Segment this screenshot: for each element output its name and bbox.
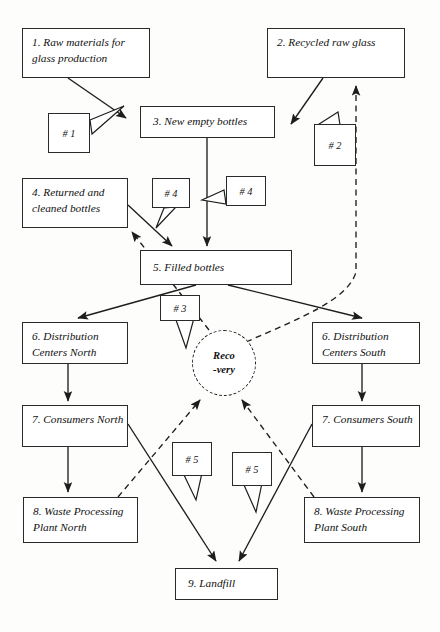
callout-tail-4-right [202,190,226,204]
node-raw-materials[interactable]: 1. Raw materials for glass production [22,28,150,78]
callout-3[interactable]: # 3 [160,295,200,321]
node-label: 8. Waste Processing Plant South [314,505,404,533]
callout-2[interactable]: # 2 [314,124,356,166]
edge-returned-to-filled [128,205,172,246]
node-label: 6. Distribution Centers North [32,330,99,358]
node-label: 3. New empty bottles [153,114,247,130]
callout-label: # 4 [165,188,178,199]
node-label: 1. Raw materials for glass production [32,36,125,64]
callout-5-right[interactable]: # 5 [232,452,272,486]
callout-tail-5-right [244,483,262,512]
callout-label: # 5 [186,454,199,465]
node-distribution-centers-south[interactable]: 6. Distribution Centers South [312,322,420,364]
node-filled-bottles[interactable]: 5. Filled bottles [140,250,292,285]
diagram-canvas: 1. Raw materials for glass production 2.… [0,0,440,632]
callout-label: # 4 [240,186,253,197]
node-label: 6. Distribution Centers South [322,330,389,358]
node-label: 7. Consumers North [32,413,123,425]
callout-tail-5-left [184,473,202,500]
node-distribution-centers-north[interactable]: 6. Distribution Centers North [22,322,128,364]
node-label: 7. Consumers South [322,413,413,425]
recovery-label-line1: Reco [213,349,235,363]
node-recycled-raw-glass[interactable]: 2. Recycled raw glass [267,28,405,78]
node-waste-processing-plant-south[interactable]: 8. Waste Processing Plant South [304,497,420,543]
node-label: 5. Filled bottles [153,260,224,276]
node-label: 2. Recycled raw glass [277,36,376,48]
callout-tail-4-left [156,207,176,228]
callout-tail-1 [90,106,124,134]
node-label: 9. Landfill [188,576,235,592]
callout-4-left[interactable]: # 4 [152,178,190,208]
callout-label: # 1 [63,128,76,139]
node-landfill[interactable]: 9. Landfill [175,568,278,600]
edge-filled-to-dc-south [228,285,362,318]
node-returned-cleaned-bottles[interactable]: 4. Returned and cleaned bottles [22,178,128,228]
node-waste-processing-plant-north[interactable]: 8. Waste Processing Plant North [23,497,138,543]
edge-consumers-south-to-landfill [239,424,312,561]
node-label: 4. Returned and cleaned bottles [32,186,104,214]
edge-recycled-to-new-bottles [291,78,323,124]
callout-label: # 3 [174,303,187,314]
callout-1[interactable]: # 1 [48,113,90,153]
callout-label: # 2 [329,140,342,151]
callout-tail-3 [176,318,194,348]
callout-5-left[interactable]: # 5 [172,442,212,476]
node-consumers-south[interactable]: 7. Consumers South [312,405,420,447]
node-label: 8. Waste Processing Plant North [33,505,123,533]
node-new-empty-bottles[interactable]: 3. New empty bottles [140,106,275,138]
node-recovery[interactable]: Reco -very [192,330,256,396]
edge-raw-to-new-bottles [68,78,126,118]
callout-label: # 5 [246,464,259,475]
node-consumers-north[interactable]: 7. Consumers North [22,405,128,447]
recovery-label-line2: -very [213,363,235,377]
callout-4-right[interactable]: # 4 [226,176,266,206]
